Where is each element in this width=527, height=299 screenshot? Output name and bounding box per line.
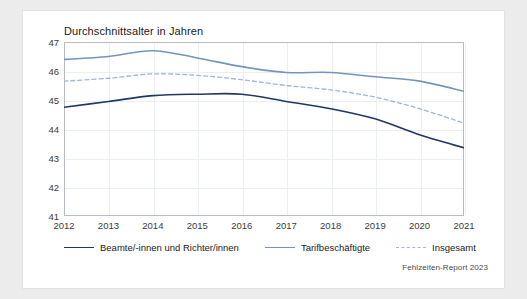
x-axis-tick-label: 2018 [311, 220, 351, 231]
legend-swatch-icon [265, 247, 295, 248]
page-title: Durchschnittsalter in Jahren [64, 25, 203, 37]
legend: Beamte/-innen und Richter/innenTarifbesc… [64, 239, 464, 255]
x-axis-tick-label: 2014 [133, 220, 173, 231]
legend-label: Insgesamt [432, 242, 476, 253]
y-axis-tick-label: 42 [33, 182, 59, 193]
y-axis-tick-label: 44 [33, 124, 59, 135]
plot-area [64, 42, 464, 216]
y-axis-tick-label: 46 [33, 66, 59, 77]
y-axis-tick-label: 45 [33, 95, 59, 106]
x-axis-tick-label: 2015 [177, 220, 217, 231]
y-axis-tick-label: 47 [33, 37, 59, 48]
gridline-vertical [465, 43, 466, 215]
x-axis-tick-label: 2019 [355, 220, 395, 231]
source-caption: Fehlzeiten-Report 2023 [402, 263, 488, 272]
legend-item[interactable]: Insgesamt [396, 242, 476, 253]
legend-label: Tarifbeschäftigte [301, 242, 370, 253]
legend-item[interactable]: Tarifbeschäftigte [265, 242, 370, 253]
x-axis-tick-label: 2012 [44, 220, 84, 231]
x-axis-tick-label: 2021 [444, 220, 484, 231]
series-line-2 [64, 51, 464, 92]
legend-swatch-icon [396, 247, 426, 248]
x-axis-tick-label: 2013 [88, 220, 128, 231]
legend-swatch-icon [64, 247, 94, 248]
x-axis-tick-label: 2020 [400, 220, 440, 231]
y-axis-tick-label: 43 [33, 153, 59, 164]
x-axis-tick-label: 2016 [222, 220, 262, 231]
legend-label: Beamte/-innen und Richter/innen [100, 242, 239, 253]
legend-item[interactable]: Beamte/-innen und Richter/innen [64, 242, 239, 253]
series-line-1 [64, 94, 464, 148]
x-axis-tick-label: 2017 [266, 220, 306, 231]
chart-card: Durchschnittsalter in Jahren 41424344454… [22, 10, 505, 289]
chart-lines [64, 42, 464, 216]
